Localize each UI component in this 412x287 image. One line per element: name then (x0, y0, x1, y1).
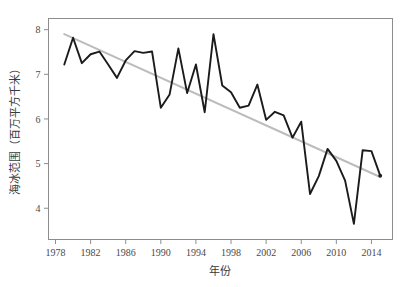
y-tick-label: 5 (36, 158, 41, 169)
y-axis-tick-labels: 45678 (36, 24, 41, 214)
chart-canvas: 45678 1978198219861990199419982002200620… (0, 0, 412, 287)
y-tick-label: 4 (36, 203, 41, 214)
y-tick-label: 6 (36, 114, 41, 125)
x-tick-label: 2010 (326, 247, 346, 258)
x-tick-label: 2002 (256, 247, 276, 258)
x-tick-label: 2006 (291, 247, 311, 258)
x-axis-title: 年份 (209, 264, 231, 277)
sea-ice-extent-series-line (64, 34, 380, 224)
x-tick-label: 1990 (151, 247, 171, 258)
series-end-point-marker (378, 174, 382, 178)
y-tick-label: 7 (36, 69, 41, 80)
x-tick-label: 1986 (116, 247, 136, 258)
x-tick-label: 1982 (81, 247, 101, 258)
y-axis-title: 海冰范围（百万平方千米） (8, 63, 21, 195)
x-tick-label: 1978 (46, 247, 66, 258)
x-tick-label: 1994 (186, 247, 206, 258)
sea-ice-extent-line-chart: 45678 1978198219861990199419982002200620… (0, 0, 412, 287)
x-axis-tick-labels: 1978198219861990199419982002200620102014 (46, 247, 382, 258)
x-tick-label: 1998 (221, 247, 241, 258)
y-axis-tick-marks (44, 30, 49, 209)
x-tick-label: 2014 (361, 247, 381, 258)
y-tick-label: 8 (36, 24, 41, 35)
x-axis-tick-marks (56, 240, 372, 245)
